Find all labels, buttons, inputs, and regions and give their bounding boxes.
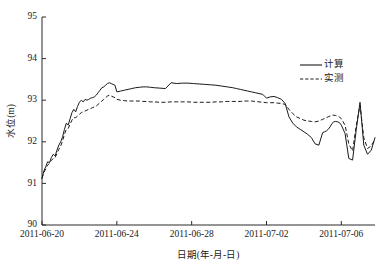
x-tick-label: 2011-07-06 [319, 229, 363, 239]
y-tick-label: 93 [28, 94, 38, 104]
x-tick-label: 2011-06-28 [170, 229, 214, 239]
y-tick-label: 91 [28, 178, 38, 188]
series-line-calculated [42, 83, 375, 179]
x-tick-label: 2011-07-02 [245, 229, 289, 239]
x-axis-title: 日期(年-月-日) [177, 249, 240, 261]
water-level-line-chart: 909192939495 2011-06-202011-06-242011-06… [0, 0, 387, 270]
x-tick-label: 2011-06-20 [20, 229, 64, 239]
x-tick-label: 2011-06-24 [95, 229, 139, 239]
chart-legend: 计算实测 [300, 58, 344, 83]
series-line-measured [42, 95, 375, 178]
y-tick-label: 90 [28, 219, 38, 229]
data-series-group [42, 83, 375, 179]
y-axis-ticks: 909192939495 [28, 11, 47, 229]
chart-figure: 909192939495 2011-06-202011-06-242011-06… [0, 0, 387, 270]
axes-spines [42, 17, 375, 225]
y-axis-title: 水位(m) [5, 104, 17, 138]
y-tick-label: 92 [28, 136, 38, 146]
y-tick-label: 95 [28, 11, 38, 21]
x-axis-ticks: 2011-06-202011-06-242011-06-282011-07-02… [20, 221, 364, 239]
legend-label-measured: 实测 [324, 72, 344, 83]
legend-label-calculated: 计算 [324, 58, 344, 69]
y-tick-label: 94 [28, 53, 38, 63]
